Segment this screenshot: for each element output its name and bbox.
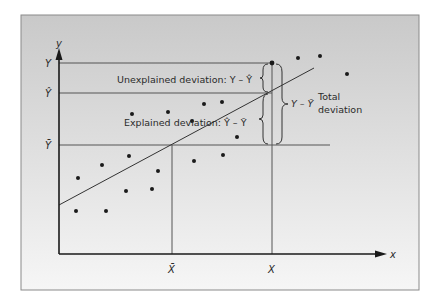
explained-deviation-label: Explained deviation: Ŷ – Ȳ <box>124 117 247 128</box>
total-deviation-formula: Y – Ȳ <box>291 98 315 109</box>
data-point <box>202 102 206 106</box>
total-deviation-label-line1: Total <box>317 91 340 102</box>
data-point <box>345 72 349 76</box>
x-bar-label: X̄ <box>167 263 176 275</box>
x-axis-label: x <box>389 249 396 260</box>
data-point <box>124 189 128 193</box>
total-deviation-label-line2: deviation <box>318 104 362 115</box>
unexplained-deviation-label: Unexplained deviation: Y – Ŷ <box>117 74 252 85</box>
diagram-frame <box>21 15 419 290</box>
data-point <box>100 163 104 167</box>
y-hat-level-label: Ŷ <box>45 87 52 99</box>
data-point <box>166 110 170 114</box>
data-point <box>74 209 78 213</box>
data-point <box>235 135 239 139</box>
y-level-label: Y <box>45 58 52 69</box>
y-bar-level-label: Ȳ <box>45 139 52 151</box>
data-point <box>156 169 160 173</box>
deviation-diagram: y x Y Ŷ Ȳ X̄ X Unexplained deviation: Y … <box>0 0 440 308</box>
data-point <box>150 187 154 191</box>
data-point <box>76 176 80 180</box>
data-point <box>318 54 322 58</box>
y-axis-label: y <box>55 38 63 49</box>
data-point <box>192 159 196 163</box>
data-point <box>221 153 225 157</box>
data-point <box>127 154 131 158</box>
data-point <box>104 209 108 213</box>
highlight-point <box>270 61 275 66</box>
data-point <box>296 56 300 60</box>
data-point <box>220 100 224 104</box>
data-point <box>130 112 134 116</box>
x-label: X <box>267 264 276 275</box>
